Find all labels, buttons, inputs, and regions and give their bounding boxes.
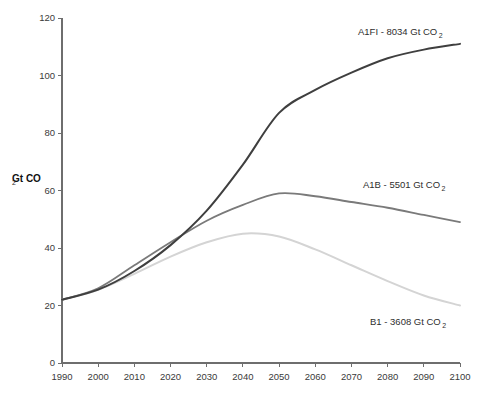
x-tick-label: 2090 (413, 371, 434, 382)
series-line-a1fi (62, 44, 460, 300)
b1-annotation-subscript: 2 (442, 322, 446, 329)
series-line-b1 (62, 233, 460, 305)
y-tick-label: 0 (50, 357, 55, 368)
x-tick-label: 1990 (51, 371, 72, 382)
a1fi-annotation: A1FI - 8034 Gt CO (358, 26, 437, 37)
y-tick-label: 100 (39, 70, 55, 81)
a1b-annotation: A1B - 5501 Gt CO (363, 179, 440, 190)
emissions-scenario-chart: 0204060801001201990200020102020203020402… (0, 0, 483, 405)
a1fi-annotation-subscript: 2 (439, 32, 443, 39)
y-tick-label: 120 (39, 12, 55, 23)
x-tick-label: 2040 (232, 371, 253, 382)
x-tick-label: 2010 (124, 371, 145, 382)
y-tick-label: 60 (44, 185, 55, 196)
y-axis-title-text: Gt CO (12, 173, 41, 184)
axis-frame (62, 18, 460, 363)
x-tick-label: 2070 (341, 371, 362, 382)
y-axis-title-subscript: 2 (12, 179, 16, 186)
y-tick-label: 80 (44, 127, 55, 138)
x-tick-label: 2060 (305, 371, 326, 382)
x-tick-label: 2020 (160, 371, 181, 382)
y-tick-label: 20 (44, 300, 55, 311)
x-tick-label: 2080 (377, 371, 398, 382)
x-tick-label: 2030 (196, 371, 217, 382)
series-annotations: A1FI - 8034 Gt CO2A1B - 5501 Gt CO2B1 - … (358, 26, 446, 329)
series-line-a1b (62, 193, 460, 300)
x-tick-label: 2000 (88, 371, 109, 382)
x-tick-label: 2050 (269, 371, 290, 382)
x-tick-label: 2100 (449, 371, 470, 382)
b1-annotation: B1 - 3608 Gt CO (370, 316, 441, 327)
chart-canvas: 0204060801001201990200020102020203020402… (0, 0, 483, 405)
y-axis-title: Gt CO2 (12, 173, 41, 186)
y-tick-label: 40 (44, 242, 55, 253)
series-lines (62, 44, 460, 306)
a1b-annotation-subscript: 2 (442, 185, 446, 192)
